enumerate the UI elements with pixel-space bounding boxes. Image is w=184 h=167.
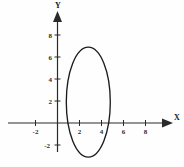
ellipse-curve [66, 47, 110, 157]
y-tick-label-8: 8 [49, 32, 53, 40]
x-tick-label-2: 2 [78, 128, 82, 136]
y-tick-label-2: 2 [49, 98, 53, 106]
x-tick-label-6: 6 [122, 128, 126, 136]
math-plot-figure: -2 2 4 6 8 -2 2 4 6 8 X Y [0, 0, 184, 167]
y-tick-label-6: 6 [49, 54, 53, 62]
x-tick-label--2: -2 [33, 128, 39, 136]
plot-canvas: -2 2 4 6 8 -2 2 4 6 8 X Y [0, 0, 184, 167]
y-tick-label-4: 4 [49, 76, 53, 84]
x-axis-label: X [174, 113, 180, 122]
x-tick-label-8: 8 [144, 128, 148, 136]
y-axis-arrow-icon [53, 11, 62, 22]
x-tick-label-4: 4 [100, 128, 104, 136]
x-axis-arrow-icon [162, 119, 173, 128]
y-tick-label--2: -2 [44, 142, 50, 150]
y-axis-label: Y [55, 1, 61, 10]
